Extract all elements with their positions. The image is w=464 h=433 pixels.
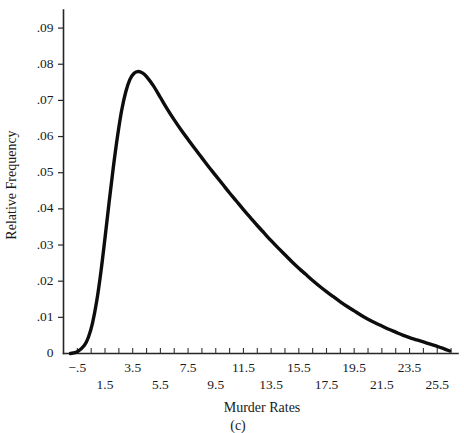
- x-axis-tick-label: −.5: [68, 360, 86, 375]
- y-axis-tick-label: .03: [37, 237, 54, 252]
- figure-caption: (c): [230, 418, 246, 433]
- y-axis-ticks: [58, 28, 64, 317]
- y-axis-tick-label: .06: [37, 128, 54, 143]
- x-axis-tick-label: 9.5: [207, 377, 224, 392]
- x-axis-tick-label: 7.5: [180, 360, 197, 375]
- x-axis-tick-labels: −.51.53.55.57.59.511.513.515.517.519.521…: [68, 360, 449, 392]
- x-axis-tick-label: 23.5: [398, 360, 422, 375]
- y-axis-tick-label: .05: [37, 164, 54, 179]
- murder-rates-figure: 0.01.02.03.04.05.06.07.08.09 −.51.53.55.…: [0, 0, 464, 433]
- x-axis-title: Murder Rates: [224, 400, 301, 415]
- chart-axes: [64, 10, 459, 354]
- density-curve: [70, 71, 449, 353]
- y-axis-tick-label: 0: [47, 345, 54, 360]
- x-axis-tick-label: 17.5: [315, 377, 339, 392]
- y-axis-tick-label: .08: [37, 56, 54, 71]
- x-axis-ticks: [77, 348, 451, 354]
- x-axis-tick-label: 1.5: [97, 377, 114, 392]
- x-axis-tick-label: 19.5: [342, 360, 366, 375]
- y-axis-tick-labels: 0.01.02.03.04.05.06.07.08.09: [37, 20, 54, 360]
- y-axis-tick-label: .09: [37, 20, 54, 35]
- y-axis-tick-label: .04: [37, 200, 54, 215]
- y-axis-tick-label: .02: [37, 273, 54, 288]
- y-axis-tick-label: .07: [37, 92, 54, 107]
- x-axis-tick-label: 13.5: [259, 377, 283, 392]
- y-axis-title: Relative Frequency: [4, 130, 19, 239]
- x-axis-tick-label: 15.5: [287, 360, 311, 375]
- relative-frequency-density-chart: 0.01.02.03.04.05.06.07.08.09 −.51.53.55.…: [0, 0, 464, 433]
- x-axis-tick-label: 5.5: [152, 377, 169, 392]
- x-axis-tick-label: 11.5: [232, 360, 255, 375]
- x-axis-tick-label: 21.5: [370, 377, 394, 392]
- x-axis-tick-label: 3.5: [124, 360, 141, 375]
- x-axis-tick-label: 25.5: [425, 377, 449, 392]
- y-axis-tick-label: .01: [37, 309, 54, 324]
